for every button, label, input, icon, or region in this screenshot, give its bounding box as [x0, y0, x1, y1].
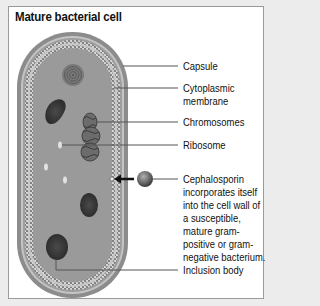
ribosome — [58, 141, 63, 149]
label-cytoplasmic-membrane-line1: Cytoplasmic — [183, 82, 234, 95]
cephalosporin-molecule — [137, 171, 153, 187]
label-cephalosporin-line1: Cephalosporin — [183, 173, 244, 186]
label-cephalosporin-line5: mature gram- — [183, 225, 240, 238]
label-cephalosporin-line4: a susceptible, — [183, 212, 241, 225]
ribosome — [63, 176, 68, 184]
label-capsule: Capsule — [183, 60, 218, 73]
label-chromosomes: Chromosomes — [183, 116, 244, 129]
label-cephalosporin-line6: positive or gram- — [183, 238, 253, 251]
label-cytoplasmic-membrane-line2: membrane — [183, 95, 228, 108]
cell-wall-insertion-point — [110, 177, 114, 181]
chromosomes-cluster — [81, 113, 100, 161]
inclusion-body — [46, 234, 68, 260]
label-inclusion-body: Inclusion body — [183, 264, 243, 277]
spiral-body — [62, 64, 84, 86]
ribosome — [44, 163, 49, 171]
label-cephalosporin-line3: into the cell wall of — [183, 199, 260, 212]
inclusion-body-middle — [80, 193, 98, 217]
label-ribosome: Ribosome — [183, 139, 226, 152]
label-cephalosporin-line7: negative bacterium. — [183, 251, 265, 264]
label-cephalosporin-line2: incorporates itself — [183, 186, 257, 199]
